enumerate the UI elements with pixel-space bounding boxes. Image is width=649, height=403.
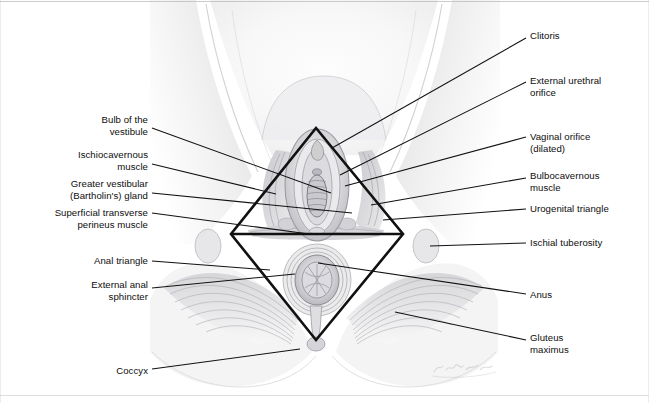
- frame-top-border: [0, 1, 649, 2]
- label-bulbocavernous-muscle: Bulbocavernous muscle: [530, 170, 600, 193]
- label-urogenital-triangle: Urogenital triangle: [530, 203, 609, 215]
- label-vaginal-orifice-dilated: Vaginal orifice (dilated): [530, 131, 590, 154]
- frame-left-border: [0, 0, 1, 403]
- label-gluteus-maximus: Gluteus maximus: [530, 332, 569, 355]
- label-external-anal-sphincter: External anal sphincter: [91, 279, 148, 302]
- label-coccyx: Coccyx: [116, 365, 148, 377]
- anatomy-figure: Bulb of the vestibuleIschiocavernous mus…: [0, 0, 649, 403]
- label-greater-vestibular-bartholins-gland: Greater vestibular (Bartholin's) gland: [70, 178, 148, 201]
- label-ischiocavernous-muscle: Ischiocavernous muscle: [78, 149, 148, 172]
- label-anal-triangle: Anal triangle: [94, 255, 148, 267]
- frame-bottom-border: [0, 395, 649, 396]
- label-bulb-of-the-vestibule: Bulb of the vestibule: [102, 114, 148, 137]
- label-clitoris: Clitoris: [530, 30, 560, 42]
- label-anus: Anus: [530, 289, 552, 301]
- label-superficial-transverse-perineus-muscle: Superficial transverse perineus muscle: [55, 207, 148, 230]
- label-ischial-tuberosity: Ischial tuberosity: [530, 237, 602, 249]
- vulva-structures: [285, 129, 349, 241]
- label-external-urethral-orifice: External urethral orifice: [530, 75, 601, 98]
